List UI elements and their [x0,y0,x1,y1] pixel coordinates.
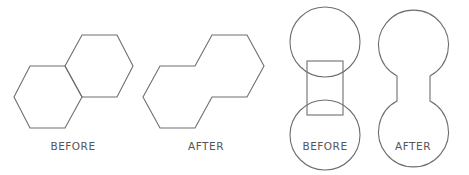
label-circle-after: AFTER [395,140,431,152]
label-circle-before: BEFORE [302,140,347,152]
label-hex-before: BEFORE [50,140,95,152]
connector-rectangle [307,61,343,115]
circle-bottom [290,100,360,170]
hexagons-after [143,35,264,128]
merged-hexagon-outline [143,35,264,128]
hexagon-right [65,35,133,97]
hexagon-left [14,66,82,128]
hexagons-before [14,35,133,128]
label-hex-after: AFTER [188,140,224,152]
circle-top [290,7,360,77]
